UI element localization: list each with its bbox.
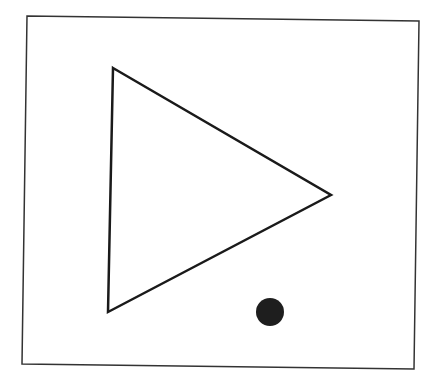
diagram-canvas [0, 0, 442, 388]
filled-dot [256, 298, 284, 326]
triangle-shape [108, 68, 331, 312]
frame-rectangle [22, 16, 419, 369]
